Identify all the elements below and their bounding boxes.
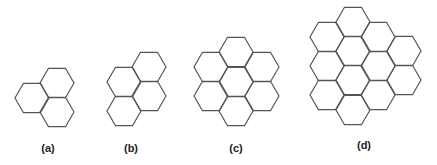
figure-d	[310, 7, 421, 124]
hexagon-cell	[40, 68, 74, 97]
figure-c	[194, 37, 279, 125]
hexagon-cell	[361, 22, 395, 51]
hexagon-cell	[40, 97, 74, 126]
figure-a	[15, 68, 74, 126]
figure-d-label: (d)	[357, 139, 371, 151]
hexagon-cell	[107, 96, 141, 125]
hexagon-cell	[132, 52, 166, 81]
hexagon-cluster-diagram: (a) (b) (c) (d)	[0, 0, 437, 165]
hexagon-cell	[107, 67, 141, 96]
figure-b-label: (b)	[124, 142, 138, 154]
figure-c-label: (c)	[229, 142, 243, 154]
figure-b	[107, 52, 166, 125]
hexagon-cell	[194, 81, 228, 110]
hexagon-cell	[15, 83, 49, 112]
hexagon-cell	[132, 81, 166, 110]
hexagon-cell	[194, 52, 228, 81]
figure-a-label: (a)	[41, 142, 55, 154]
